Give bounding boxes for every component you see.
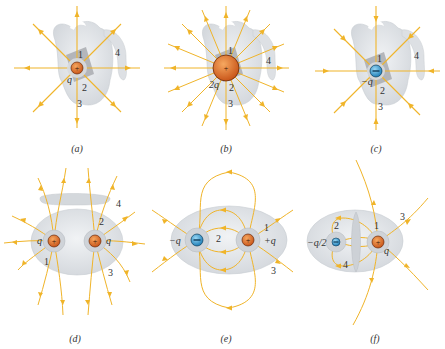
panel-e: + −q +q 1 2 3 (e) (152, 170, 293, 346)
surface-label-3: 3 (378, 101, 383, 112)
plus-sign: + (376, 238, 381, 247)
surface-label-1: 1 (78, 49, 83, 60)
plus-sign: + (246, 236, 251, 245)
plus-sign: + (52, 237, 57, 246)
charge-label: q (67, 74, 72, 85)
surface-label-1: 1 (377, 53, 382, 64)
panel-caption-e: (e) (220, 333, 232, 345)
plus-sign: + (224, 64, 229, 73)
surface-label-1: 1 (264, 222, 269, 233)
surface-label-4: 4 (115, 47, 120, 58)
panel-caption-c: (c) (370, 143, 382, 155)
charge-label-left: q (37, 235, 42, 246)
plus-sign: + (93, 237, 98, 246)
minus-sign (334, 241, 339, 242)
surface-label-4: 4 (116, 198, 121, 209)
panel-b: + 1 2q 2 3 4 (b) (164, 6, 289, 155)
gauss-law-figure: + 1 q 2 3 4 (a) (0, 0, 445, 349)
panel-d: + + q q 1 2 3 4 (d) (4, 168, 145, 345)
panel-f: + −q/2 q 1 2 3 4 (f) (307, 160, 428, 345)
charge-label: −q (361, 76, 373, 87)
surface-label-3: 3 (108, 267, 113, 278)
surface-label-1: 1 (44, 256, 49, 267)
charge-label: 2q (209, 79, 219, 90)
surface-label-1: 1 (228, 45, 233, 56)
panel-a: + 1 q 2 3 4 (a) (14, 6, 140, 155)
surface-label-4: 4 (266, 55, 271, 66)
surface-label-3: 3 (77, 98, 82, 109)
panel-caption-f: (f) (370, 333, 380, 345)
charge-label-right: q (106, 235, 111, 246)
gaussian-surface-4 (352, 212, 361, 272)
minus-sign (194, 239, 201, 240)
panel-caption-b: (b) (220, 143, 232, 155)
panel-caption-d: (d) (69, 333, 81, 345)
surface-label-2: 2 (216, 233, 221, 244)
plus-sign: + (75, 64, 80, 73)
surface-label-2: 2 (380, 85, 385, 96)
surface-label-2: 2 (99, 216, 104, 227)
charge-label-positive: +q (264, 235, 276, 246)
gaussian-surface-4 (40, 194, 110, 206)
surface-label-2: 2 (334, 220, 339, 231)
charge-label-negative: −q/2 (307, 237, 327, 248)
charge-label-negative: −q (169, 235, 181, 246)
panel-c: 1 −q 2 3 4 (c) (315, 6, 440, 155)
surface-label-4: 4 (414, 50, 419, 61)
surface-label-3: 3 (228, 98, 233, 109)
surface-label-1: 1 (374, 220, 379, 231)
charge-label-positive: q (384, 245, 389, 256)
panel-caption-a: (a) (71, 143, 83, 155)
surface-label-2: 2 (82, 82, 87, 93)
minus-sign (373, 70, 380, 71)
surface-label-3: 3 (400, 211, 405, 222)
surface-label-2: 2 (229, 82, 234, 93)
surface-label-3: 3 (271, 265, 276, 276)
surface-label-4: 4 (343, 259, 348, 270)
